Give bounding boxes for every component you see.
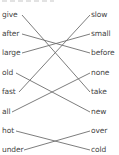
left-word-old[interactable]: old <box>2 69 13 77</box>
left-word-large[interactable]: large <box>2 49 21 57</box>
left-word-after[interactable]: after <box>2 30 19 38</box>
left-word-all[interactable]: all <box>2 108 10 116</box>
right-word-cold[interactable]: cold <box>91 146 106 154</box>
right-word-slow[interactable]: slow <box>91 11 107 19</box>
left-word-give[interactable]: give <box>2 11 18 19</box>
right-word-new[interactable]: new <box>91 108 106 116</box>
right-word-none[interactable]: none <box>91 69 109 77</box>
left-word-fast[interactable]: fast <box>2 88 16 96</box>
right-word-take[interactable]: take <box>91 88 107 96</box>
right-word-small[interactable]: small <box>91 30 110 38</box>
left-word-under[interactable]: under <box>2 146 23 154</box>
right-word-before[interactable]: before <box>91 49 115 57</box>
right-word-over[interactable]: over <box>91 127 107 135</box>
left-word-hot[interactable]: hot <box>2 127 14 135</box>
